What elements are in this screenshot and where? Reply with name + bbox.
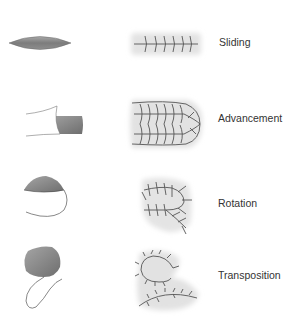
- transposition-flap-icon: [22, 245, 66, 313]
- row-sliding: Sliding: [0, 0, 302, 80]
- flap-label-sliding: Sliding: [219, 36, 251, 48]
- z-shaped-sutured-closure-icon: [133, 248, 203, 314]
- u-shaped-sutured-closure-icon: [126, 94, 206, 152]
- advancement-flap-icon: [24, 102, 84, 138]
- row-rotation: Rotation: [0, 160, 302, 240]
- flap-label-transposition: Transposition: [218, 269, 281, 281]
- flap-label-advancement: Advancement: [218, 112, 282, 124]
- row-advancement: Advancement: [0, 80, 302, 160]
- lens-shaped-defect-icon: [8, 32, 72, 54]
- linear-sutured-closure-icon: [128, 30, 204, 58]
- rotation-flap-icon: [20, 174, 72, 218]
- row-transposition: Transposition: [0, 240, 302, 318]
- flap-label-rotation: Rotation: [218, 197, 257, 209]
- curved-sutured-closure-icon: [136, 174, 196, 236]
